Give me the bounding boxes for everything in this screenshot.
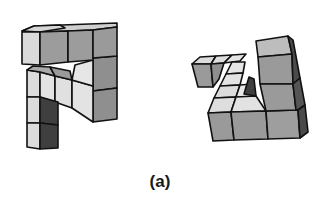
- figure-caption: (a): [0, 172, 320, 192]
- polycube-figure: (a): [0, 0, 320, 211]
- left-polycube: [22, 23, 117, 149]
- right-polycube: [192, 36, 308, 141]
